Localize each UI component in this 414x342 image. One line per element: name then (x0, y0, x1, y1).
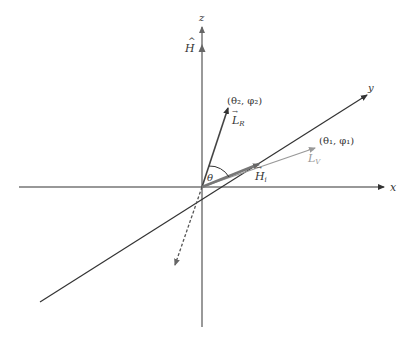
coordinate-diagram: x z H ^ y (θ₂, φ₂) LR → (θ₁, φ₁) LV → (0, 0, 414, 342)
l-v-label: LV (307, 152, 321, 166)
l-r-accent: → (232, 108, 238, 116)
h-i-label: Hi (254, 170, 267, 184)
l-v-accent: → (308, 146, 314, 154)
theta-label: θ (207, 172, 213, 183)
h-hat-arrowhead-icon (199, 44, 206, 52)
l-v-vector: (θ₁, φ₁) LV → (202, 135, 354, 187)
l-r-endpoint-label: (θ₂, φ₂) (227, 95, 262, 106)
z-axis-label: z (198, 12, 205, 23)
z-axis: z (198, 12, 205, 327)
l-r-label: LR (231, 114, 245, 128)
dashed-vector (175, 187, 202, 265)
y-axis: y (40, 82, 374, 302)
h-i-accent: → (256, 164, 262, 172)
x-axis-label: x (390, 181, 397, 194)
y-axis-label: y (367, 82, 374, 93)
h-hat-accent: ^ (188, 36, 196, 46)
l-v-endpoint-label: (θ₁, φ₁) (319, 135, 354, 146)
